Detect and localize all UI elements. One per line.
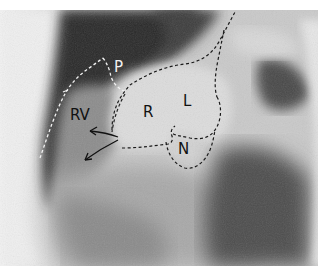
label-rv: RV (70, 108, 90, 123)
label-r: R (143, 105, 153, 120)
radiograph-figure: RV P R L N (0, 0, 325, 270)
label-l: L (183, 94, 191, 109)
label-n: N (178, 142, 189, 157)
xray-image (0, 0, 325, 270)
label-p: P (114, 60, 123, 75)
